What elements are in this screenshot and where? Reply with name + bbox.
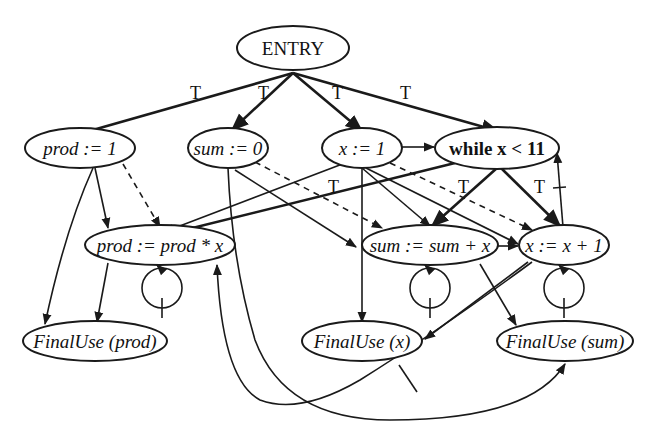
edge-prod-update-finaluse-prod [97,263,108,322]
flow-edges [45,147,584,420]
edge-entry-while [293,73,498,131]
svg-text:while x < 11: while x < 11 [449,138,545,159]
svg-text:FinalUse (x): FinalUse (x) [313,331,411,353]
svg-text:sum := sum + x: sum := sum + x [370,235,491,256]
node-entry: ENTRY [237,26,349,70]
edge-dashed-prod [123,164,160,227]
svg-text:x := 1: x := 1 [338,138,386,159]
node-while: while x < 11 [435,127,559,169]
svg-text:FinalUse (sum): FinalUse (sum) [505,331,625,353]
edge-label-t: T [534,177,545,197]
svg-text:x := x + 1: x := x + 1 [524,235,602,256]
node-x-init: x := 1 [322,128,402,168]
node-finaluse-prod: FinalUse (prod) [23,321,167,361]
node-x-update: x := x + 1 [519,225,609,265]
edge-label-t: T [258,83,269,103]
edge-label-t: T [458,177,469,197]
node-sum-update: sum := sum + x [362,225,498,265]
svg-text:prod := 1: prod := 1 [41,138,116,159]
loop-carried-tick [553,187,566,188]
node-finaluse-x: FinalUse (x) [302,321,422,361]
edge-x-update-while [557,153,563,227]
edge-label-t: T [332,83,343,103]
svg-text:prod := prod * x: prod := prod * x [95,235,224,256]
edge-label-t: T [400,83,411,103]
dependence-graph: T T T T T T T ENTRY prod := 1 sum := 0 x… [0,0,657,434]
node-sum-init: sum := 0 [188,128,268,168]
node-finaluse-sum: FinalUse (sum) [497,321,633,361]
svg-text:ENTRY: ENTRY [262,38,325,59]
edge-label-t: T [190,83,201,103]
edge-prod-init-prod-update [95,168,108,228]
edge-while-x-update [501,168,560,226]
svg-text:FinalUse (prod): FinalUse (prod) [32,331,156,353]
node-prod-update: prod := prod * x [85,225,235,265]
edge-label-t: T [328,177,339,197]
node-prod-init: prod := 1 [25,128,135,168]
svg-text:sum := 0: sum := 0 [194,138,263,159]
